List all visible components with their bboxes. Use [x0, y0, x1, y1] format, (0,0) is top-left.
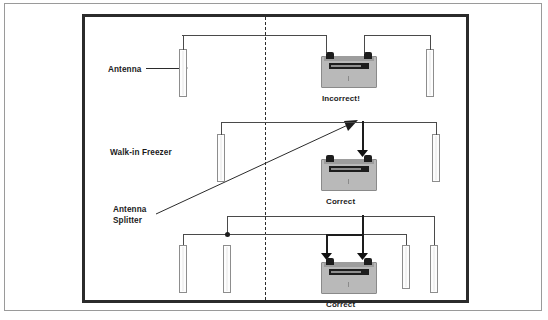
walk-in-freezer-room-outline — [82, 14, 469, 303]
antenna — [179, 49, 187, 97]
antenna — [217, 134, 225, 182]
wire-top-right-rail — [364, 35, 431, 36]
device-antenna-connector-right — [364, 258, 372, 265]
radio-base-station — [321, 258, 377, 294]
wire-splitter-to-device — [362, 121, 364, 154]
wire-antenna-stub — [436, 122, 437, 135]
device-antenna-connector-left — [326, 52, 334, 59]
antenna-leader-line — [146, 68, 183, 69]
wire-antenna-stub — [430, 35, 431, 50]
room-divider-dashed-line — [265, 17, 266, 300]
wire-upper-rail-right-drop — [434, 216, 435, 246]
device-indicator — [348, 76, 349, 81]
radio-base-station — [321, 155, 377, 191]
wire-bottom-upper-rail — [227, 216, 435, 217]
wire-middle-rail — [221, 122, 436, 123]
device-indicator — [348, 282, 349, 287]
antenna-label: Antenna — [108, 64, 141, 75]
row-caption-correct-middle: Correct — [326, 196, 355, 207]
device-display — [329, 269, 369, 275]
radio-base-station — [321, 52, 377, 88]
row-caption-incorrect: Incorrect! — [322, 93, 360, 104]
wire-to-device-right-connector — [364, 35, 365, 53]
device-antenna-connector-right — [364, 52, 372, 59]
wire-to-device-left-connector — [326, 35, 327, 53]
antenna — [430, 245, 438, 293]
wire-splitter-to-lower-rail — [362, 215, 364, 257]
device-antenna-connector-right — [364, 155, 372, 162]
device-antenna-connector-left — [326, 258, 334, 265]
wire-bottom-lower-rail — [183, 234, 407, 235]
wire-top-left-rail — [182, 35, 327, 36]
wire-antenna-stub — [183, 35, 184, 50]
device-display — [329, 166, 369, 172]
antenna — [432, 134, 440, 182]
row-caption-correct-bottom: Correct — [326, 299, 355, 310]
device-indicator — [348, 179, 349, 184]
antenna-splitter — [225, 232, 230, 237]
diagram-page: Antenna Walk-in Freezer Antenna Splitter… — [0, 0, 548, 320]
antenna — [402, 245, 410, 289]
wire-branch-to-device-left — [326, 234, 363, 236]
antenna — [179, 245, 187, 293]
wire-antenna-stub — [221, 122, 222, 135]
walk-in-freezer-label: Walk-in Freezer — [110, 147, 172, 158]
device-display — [329, 63, 369, 69]
antenna-splitter-label-line1: Antenna — [113, 204, 146, 215]
antenna-splitter-label-line2: Splitter — [113, 215, 142, 226]
antenna — [426, 49, 434, 97]
device-antenna-connector-left — [326, 155, 334, 162]
wire-branch-down-left — [326, 234, 328, 256]
antenna — [223, 245, 231, 293]
